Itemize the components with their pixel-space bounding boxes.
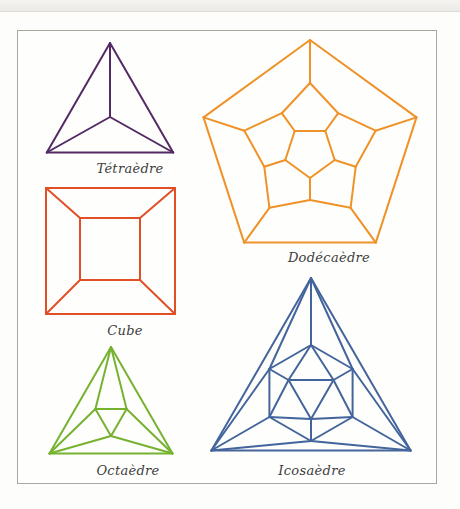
cube-label: Cube	[107, 323, 143, 338]
icosahedron-diagram	[211, 278, 410, 451]
tetrahedron-diagram	[47, 43, 173, 153]
icosahedron-label: Icosaèdre	[278, 463, 345, 478]
octahedron-label: Octaèdre	[96, 463, 159, 478]
dodecahedron-label: Dodécaèdre	[288, 250, 370, 265]
octahedron-diagram	[50, 347, 173, 454]
cube-diagram	[46, 188, 175, 314]
dodecahedron-diagram	[204, 40, 417, 243]
tetrahedron-label: Tétraèdre	[96, 161, 163, 176]
polyhedra-diagram	[0, 0, 460, 509]
